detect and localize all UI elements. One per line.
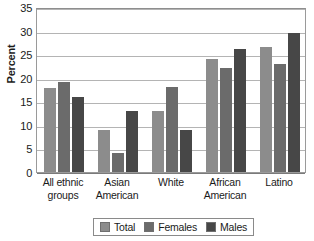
x-tick-label: Latino <box>252 176 306 189</box>
bar <box>260 47 273 172</box>
x-tick-label-line: American <box>90 189 144 202</box>
y-tick-label: 30 <box>8 27 32 38</box>
x-tick-label: AsianAmerican <box>90 176 144 201</box>
bar <box>44 88 57 172</box>
bar-group <box>253 9 307 172</box>
bar <box>126 111 139 172</box>
chart-legend: TotalFemalesMales <box>93 218 254 236</box>
bar <box>220 68 233 172</box>
y-tick-label: 0 <box>8 168 32 179</box>
legend-swatch-icon <box>100 222 110 232</box>
bar-group <box>91 9 145 172</box>
legend-swatch-icon <box>206 222 216 232</box>
x-tick-label: AfricanAmerican <box>198 176 252 201</box>
x-tick-label-line: Latino <box>252 176 306 189</box>
bar-group <box>37 9 91 172</box>
legend-label: Females <box>158 222 197 233</box>
legend-entry-females[interactable]: Females <box>144 222 197 233</box>
bar <box>234 49 247 172</box>
y-tick-label: 10 <box>8 121 32 132</box>
x-tick-label-line: American <box>198 189 252 202</box>
bars-layer <box>37 9 305 172</box>
y-axis-tick-labels: 35302520151050 <box>8 0 32 181</box>
x-tick-label-line: All ethnic <box>36 176 90 189</box>
y-tick-label: 15 <box>8 97 32 108</box>
bar <box>180 130 193 172</box>
bar-group <box>199 9 253 172</box>
bar <box>72 97 85 172</box>
legend-label: Total <box>114 222 135 233</box>
bar-group <box>145 9 199 172</box>
legend-label: Males <box>220 222 247 233</box>
x-tick-label: All ethnicgroups <box>36 176 90 201</box>
bar <box>206 59 219 172</box>
bar <box>58 82 71 172</box>
legend-swatch-icon <box>144 222 154 232</box>
plot-area <box>36 8 306 173</box>
bar-chart: Percent 35302520151050 All ethnicgroupsA… <box>0 0 314 241</box>
x-tick-label: White <box>144 176 198 189</box>
bar <box>152 111 165 172</box>
bar <box>112 153 125 172</box>
gridline <box>37 173 305 174</box>
bar <box>274 64 287 172</box>
x-tick-label-line: White <box>144 176 198 189</box>
x-tick-label-line: Asian <box>90 176 144 189</box>
bar <box>288 33 301 172</box>
legend-entry-males[interactable]: Males <box>206 222 247 233</box>
bar <box>166 87 179 172</box>
y-tick-label: 20 <box>8 74 32 85</box>
y-tick-label: 35 <box>8 3 32 14</box>
x-tick-label-line: African <box>198 176 252 189</box>
x-axis-tick-labels: All ethnicgroupsAsianAmericanWhiteAfrica… <box>36 176 306 210</box>
legend-entry-total[interactable]: Total <box>100 222 135 233</box>
y-tick-label: 5 <box>8 144 32 155</box>
y-tick-label: 25 <box>8 50 32 61</box>
x-tick-label-line: groups <box>36 189 90 202</box>
bar <box>98 130 111 172</box>
